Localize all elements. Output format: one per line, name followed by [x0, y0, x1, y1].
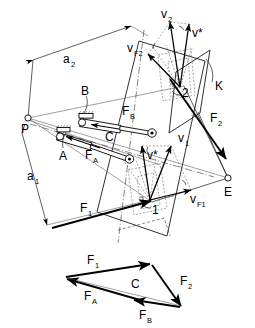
- svg-text:a: a: [27, 169, 34, 183]
- svg-text:F: F: [139, 308, 146, 322]
- label-joint-1: 1: [152, 203, 159, 217]
- label-polygon-fa: F A: [84, 289, 97, 306]
- svg-text:F1: F1: [197, 200, 206, 209]
- svg-text:F2: F2: [134, 49, 143, 58]
- label-member-c: C: [105, 130, 114, 144]
- svg-text:A: A: [92, 297, 97, 306]
- label-polygon-f1: F 1: [87, 253, 99, 270]
- svg-text:F: F: [210, 111, 217, 125]
- dimension-a2: [28, 26, 148, 118]
- label-polygon-fb: F B: [139, 308, 152, 325]
- label-dim-a1: a 1: [27, 169, 39, 186]
- velocity-construction-1: [118, 157, 176, 236]
- pivot-e: [225, 175, 231, 181]
- body-outline-k: [169, 50, 210, 133]
- label-force-f2: F 2: [210, 111, 222, 128]
- svg-text:F: F: [87, 253, 94, 267]
- svg-text:v: v: [178, 131, 184, 145]
- label-force-fb: F B: [122, 104, 135, 121]
- label-vel-vstar-low: v*: [147, 148, 158, 162]
- cylinder-b-mount: [79, 111, 93, 118]
- svg-text:2: 2: [71, 60, 75, 69]
- svg-text:v: v: [190, 192, 196, 206]
- label-member-k: K: [215, 79, 223, 93]
- svg-text:v*: v*: [147, 148, 158, 162]
- pivot-p: [25, 115, 31, 121]
- label-polygon-f2: F 2: [180, 274, 192, 291]
- svg-text:1: 1: [88, 209, 92, 218]
- label-joint-2: 2: [182, 86, 189, 100]
- svg-text:2: 2: [218, 119, 222, 128]
- label-member-b: B: [81, 84, 89, 98]
- svg-text:1: 1: [185, 139, 189, 148]
- svg-text:F: F: [85, 148, 92, 162]
- svg-text:A: A: [93, 156, 98, 165]
- svg-text:F: F: [180, 274, 187, 288]
- diagram-root: P E 2 1 A B C K a 2 a 1 F 1 F 2 F A F B …: [0, 0, 255, 328]
- mechanism-diagram: P E 2 1 A B C K a 2 a 1 F 1 F 2 F A F B …: [0, 0, 255, 328]
- svg-text:B: B: [147, 316, 152, 325]
- svg-text:B: B: [130, 112, 135, 121]
- svg-text:v: v: [161, 7, 167, 21]
- svg-text:F: F: [84, 289, 91, 303]
- cylinder-b: [78, 111, 156, 137]
- label-vel-v1: v 1: [178, 131, 189, 148]
- label-polygon-c: C: [131, 277, 140, 291]
- svg-text:1: 1: [35, 177, 39, 186]
- svg-text:v*: v*: [192, 26, 203, 40]
- svg-text:F: F: [122, 104, 129, 118]
- svg-text:F: F: [80, 201, 87, 215]
- vector-vf1[interactable]: [150, 190, 191, 200]
- svg-text:a: a: [63, 52, 70, 66]
- label-vel-vstar-top: v*: [192, 26, 203, 40]
- label-vel-vf2: v F2: [127, 41, 143, 58]
- svg-text:2: 2: [168, 15, 172, 24]
- label-dim-a2: a 2: [63, 52, 75, 69]
- cylinder-a-mount: [57, 125, 71, 132]
- label-vel-v2: v 2: [161, 7, 172, 24]
- label-e: E: [224, 185, 232, 199]
- svg-text:v: v: [127, 41, 133, 55]
- svg-text:1: 1: [95, 261, 99, 270]
- label-p: P: [21, 122, 29, 136]
- svg-text:2: 2: [188, 282, 192, 291]
- closure-lines-2: [148, 22, 189, 54]
- label-member-a: A: [59, 149, 67, 163]
- label-vel-vf1: v F1: [190, 192, 206, 209]
